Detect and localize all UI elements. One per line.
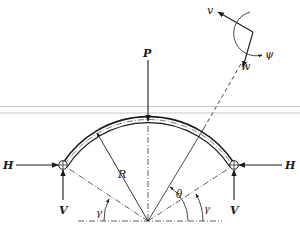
rotation-psi-label: ψ [265, 48, 274, 61]
arch [63, 117, 234, 167]
force-h-left-label: H [2, 159, 14, 172]
load-p-label: P [142, 47, 152, 60]
local-frame [218, 12, 262, 67]
disp-v-label: v [207, 4, 214, 17]
support-line-left [63, 165, 148, 221]
force-v-left-label: V [59, 204, 69, 217]
arch-diagram: R θ γ γ H H V V P v w ψ [0, 0, 300, 228]
radius-label: R [117, 168, 126, 181]
gamma-arc-left [104, 199, 109, 221]
pin-left [59, 161, 68, 170]
pin-right [230, 161, 239, 170]
background-band [0, 107, 300, 114]
theta-label: θ [176, 188, 183, 200]
gamma-arc-right [196, 194, 203, 221]
theta-extension [204, 62, 242, 128]
disp-w-label: w [241, 60, 251, 73]
support-line-right [148, 165, 234, 221]
gamma-label-left: γ [96, 207, 102, 218]
gamma-label-right: γ [204, 203, 210, 214]
force-v-right-label: V [230, 204, 240, 217]
theta-line [148, 128, 204, 221]
force-h-right-label: H [284, 159, 296, 172]
